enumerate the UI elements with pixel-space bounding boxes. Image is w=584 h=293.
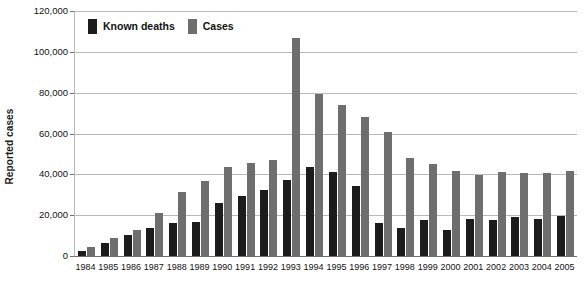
y-axis-tick-label: 40,000 [8,169,68,179]
plot-area [74,11,577,257]
x-axis-tick-label: 1992 [257,262,280,273]
legend-swatch-known-deaths-icon [88,19,97,34]
bar-cases [133,230,141,256]
legend-item-known-deaths: Known deaths [88,19,175,34]
bar-group [78,11,95,256]
x-axis-tick-label: 1995 [325,262,348,273]
bar-group [124,11,141,256]
bar-group [101,11,118,256]
bar-cases [498,172,506,256]
x-axis-tick-label: 1984 [74,262,97,273]
bar-cases [201,181,209,256]
x-axis-tick-label: 1989 [188,262,211,273]
bar-known-deaths [238,196,246,256]
x-axis-tick-label: 1990 [211,262,234,273]
bar-cases [110,238,118,256]
bar-known-deaths [78,251,86,256]
bar-cases [384,132,392,256]
bar-known-deaths [375,223,383,256]
bar-cases [269,160,277,256]
bar-chart: Reported cases Known deaths Cases 020,00… [0,0,584,293]
bar-known-deaths [146,228,154,256]
bar-known-deaths [260,190,268,256]
y-tick-mark [70,52,74,53]
x-axis-tick-label: 1997 [371,262,394,273]
bar-known-deaths [215,203,223,256]
bar-cases [429,164,437,256]
bar-group [375,11,392,256]
x-axis-tick-label: 2003 [508,262,531,273]
bar-known-deaths [420,220,428,256]
x-axis-tick-label: 1987 [142,262,165,273]
bar-cases [406,158,414,256]
y-axis-tick-label: 100,000 [8,47,68,57]
x-axis-tick-label: 1993 [279,262,302,273]
y-tick-mark [70,174,74,175]
bar-known-deaths [489,220,497,256]
x-axis-tick-label: 1985 [97,262,120,273]
bar-group [397,11,414,256]
bar-known-deaths [124,235,132,256]
bar-known-deaths [397,228,405,256]
x-axis-tick-label: 2005 [553,262,576,273]
bar-group [238,11,255,256]
bar-group [466,11,483,256]
bar-known-deaths [466,219,474,256]
bar-cases [543,173,551,256]
bar-known-deaths [306,167,314,256]
bar-cases [87,247,95,256]
bar-known-deaths [169,223,177,256]
bar-cases [224,167,232,256]
bar-group [169,11,186,256]
y-axis-title: Reported cases [0,0,18,293]
y-axis-tick-label: 20,000 [8,210,68,220]
y-tick-mark [70,215,74,216]
y-tick-mark [70,256,74,257]
x-axis-tick-label: 2000 [439,262,462,273]
x-axis-tick-label: 1986 [120,262,143,273]
y-axis-tick-label: 0 [8,251,68,261]
bar-cases [520,173,528,256]
x-axis-tick-label: 2001 [462,262,485,273]
bar-cases [338,105,346,256]
bar-group [557,11,574,256]
x-axis-tick-label: 2004 [530,262,553,273]
bar-known-deaths [101,243,109,256]
bar-known-deaths [329,172,337,256]
bar-cases [452,171,460,256]
y-axis-tick-label: 80,000 [8,88,68,98]
bar-known-deaths [534,219,542,256]
legend-label-cases: Cases [203,20,234,32]
y-tick-mark [70,93,74,94]
bar-cases [178,192,186,256]
bar-cases [315,94,323,256]
bar-known-deaths [192,222,200,256]
bar-known-deaths [557,216,565,256]
bar-group [215,11,232,256]
bar-group [283,11,300,256]
bar-group [420,11,437,256]
bar-known-deaths [283,180,291,256]
bar-known-deaths [443,230,451,256]
x-axis-tick-label: 1998 [393,262,416,273]
bar-group [534,11,551,256]
y-tick-mark [70,11,74,12]
bar-group [146,11,163,256]
bar-group [511,11,528,256]
bar-group [489,11,506,256]
x-axis-tick-label: 1988 [165,262,188,273]
x-axis-tick-label: 1991 [234,262,257,273]
legend-swatch-cases-icon [188,19,197,34]
bar-group [192,11,209,256]
y-axis-tick-label: 60,000 [8,129,68,139]
bar-cases [361,117,369,256]
bar-group [306,11,323,256]
y-axis-tick-label: 120,000 [8,6,68,16]
bar-group [443,11,460,256]
bar-known-deaths [352,186,360,256]
x-axis-tick-label: 1994 [302,262,325,273]
legend-item-cases: Cases [188,19,234,34]
x-axis-tick-label: 1996 [348,262,371,273]
bar-group [260,11,277,256]
x-axis-tick-label: 2002 [485,262,508,273]
